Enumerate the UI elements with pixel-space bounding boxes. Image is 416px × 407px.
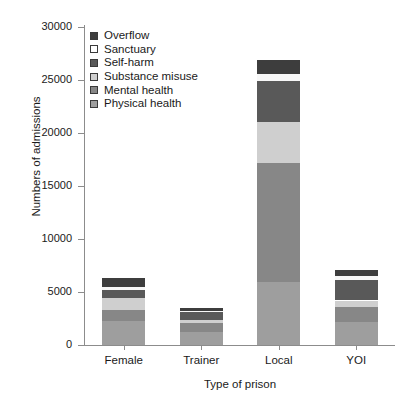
y-tick-mark: [78, 345, 84, 346]
bar-segment-physical-health[interactable]: [102, 321, 145, 345]
y-tick-mark: [78, 133, 84, 134]
legend-swatch-icon: [90, 32, 98, 40]
bar-segment-physical-health[interactable]: [335, 322, 378, 345]
x-tick-mark: [356, 345, 357, 350]
bar-segment-sanctuary[interactable]: [335, 276, 378, 280]
legend-label: Self-harm: [104, 56, 154, 69]
legend-swatch-icon: [90, 45, 98, 53]
legend-item-substance-misuse[interactable]: Substance misuse: [90, 70, 198, 84]
bar-segment-sanctuary[interactable]: [180, 311, 223, 312]
bar-segment-substance-misuse[interactable]: [257, 122, 300, 163]
bar-segment-self-harm[interactable]: [335, 280, 378, 300]
y-tick-label: 25000: [14, 74, 72, 85]
legend-item-overflow[interactable]: Overflow: [90, 29, 198, 43]
y-tick-mark: [78, 239, 84, 240]
bar-segment-mental-health[interactable]: [102, 310, 145, 321]
chart-legend: OverflowSanctuarySelf-harmSubstance misu…: [90, 29, 198, 111]
bar-segment-substance-misuse[interactable]: [102, 298, 145, 310]
y-tick-label: 15000: [14, 180, 72, 191]
bar-segment-sanctuary[interactable]: [102, 287, 145, 290]
bar-female[interactable]: [102, 278, 145, 345]
y-tick-label: 20000: [14, 127, 72, 138]
y-tick-label: 10000: [14, 233, 72, 244]
legend-swatch-icon: [90, 100, 98, 108]
legend-label: Overflow: [104, 29, 149, 42]
bar-local[interactable]: [257, 60, 300, 345]
bar-segment-substance-misuse[interactable]: [335, 301, 378, 308]
bar-segment-overflow[interactable]: [335, 270, 378, 276]
y-tick-mark: [78, 186, 84, 187]
legend-swatch-icon: [90, 86, 98, 94]
legend-label: Sanctuary: [104, 43, 156, 56]
legend-item-sanctuary[interactable]: Sanctuary: [90, 43, 198, 57]
bar-trainer[interactable]: [180, 308, 223, 345]
bar-segment-physical-health[interactable]: [180, 332, 223, 345]
legend-item-self-harm[interactable]: Self-harm: [90, 56, 198, 70]
x-tick-mark: [124, 345, 125, 350]
bar-segment-self-harm[interactable]: [102, 290, 145, 298]
x-tick-label-female: Female: [84, 354, 164, 367]
bar-segment-self-harm[interactable]: [180, 312, 223, 319]
bar-segment-sanctuary[interactable]: [257, 74, 300, 81]
bar-segment-overflow[interactable]: [257, 60, 300, 74]
bar-segment-overflow[interactable]: [180, 308, 223, 311]
legend-swatch-icon: [90, 73, 98, 81]
y-axis-title: Numbers of admissions: [30, 77, 43, 237]
legend-label: Physical health: [104, 97, 181, 110]
y-tick-mark: [78, 27, 84, 28]
y-tick-mark: [78, 292, 84, 293]
bar-yoi[interactable]: [335, 270, 378, 345]
x-tick-label-trainer: Trainer: [161, 354, 241, 367]
bar-segment-self-harm[interactable]: [257, 81, 300, 122]
y-tick-mark: [78, 80, 84, 81]
bar-segment-mental-health[interactable]: [180, 323, 223, 331]
bar-segment-substance-misuse[interactable]: [180, 320, 223, 324]
legend-label: Mental health: [104, 84, 173, 97]
bar-segment-mental-health[interactable]: [335, 307, 378, 322]
legend-swatch-icon: [90, 59, 98, 67]
bar-segment-overflow[interactable]: [102, 278, 145, 287]
chart-container: 050001000015000200002500030000 Numbers o…: [0, 0, 416, 407]
x-tick-mark: [279, 345, 280, 350]
bar-segment-physical-health[interactable]: [257, 282, 300, 345]
x-axis-line: [84, 345, 395, 346]
y-tick-label: 5000: [14, 286, 72, 297]
y-tick-label: 0: [14, 339, 72, 350]
legend-item-physical-health[interactable]: Physical health: [90, 97, 198, 111]
x-tick-label-local: Local: [239, 354, 319, 367]
x-tick-mark: [201, 345, 202, 350]
y-tick-label: 30000: [14, 21, 72, 32]
legend-item-mental-health[interactable]: Mental health: [90, 83, 198, 97]
bar-segment-mental-health[interactable]: [257, 163, 300, 282]
x-tick-label-yoi: YOI: [316, 354, 396, 367]
x-axis-title: Type of prison: [85, 378, 395, 391]
legend-label: Substance misuse: [104, 70, 198, 83]
